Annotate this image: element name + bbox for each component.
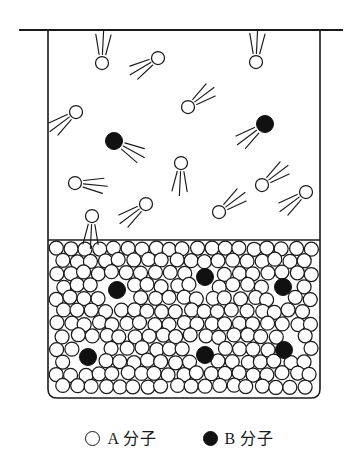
gas-phase-molecules	[49, 30, 313, 249]
liquid-molecule-a	[77, 265, 91, 279]
motion-lines	[267, 162, 289, 183]
liquid-molecule-a	[241, 328, 255, 342]
liquid-molecule-a	[288, 290, 302, 304]
liquid-molecule-a	[269, 380, 283, 394]
motion-lines	[119, 206, 141, 227]
liquid-molecule-a	[50, 267, 64, 281]
gas-molecule-a	[213, 206, 226, 219]
liquid-molecule-a	[120, 316, 134, 330]
gas-molecule-a	[250, 56, 263, 69]
liquid-molecule-b	[109, 282, 126, 299]
legend-label-b: B 分子	[225, 431, 274, 447]
liquid-molecule-a	[57, 303, 71, 317]
liquid-molecule-a	[213, 378, 227, 392]
liquid-molecule-a	[227, 328, 241, 342]
motion-lines	[49, 114, 71, 135]
liquid-molecule-a	[283, 380, 297, 394]
liquid-molecule-a	[70, 278, 84, 292]
liquid-molecule-a	[84, 303, 98, 317]
liquid-molecule-a	[298, 380, 312, 394]
liquid-molecule-a	[218, 241, 232, 255]
liquid-molecule-a	[275, 317, 289, 331]
liquid-molecule-a	[255, 379, 269, 393]
liquid-molecule-a	[239, 380, 253, 394]
liquid-molecule-a	[56, 253, 70, 267]
motion-lines	[193, 84, 215, 105]
liquid-molecule-a	[141, 380, 155, 394]
liquid-molecule-a	[105, 367, 119, 381]
liquid-molecule-a	[70, 303, 84, 317]
liquid-molecule-a	[99, 354, 113, 368]
gas-molecule-a	[182, 101, 195, 114]
legend-item-b: B 分子	[203, 422, 274, 455]
liquid-molecule-a	[233, 342, 247, 356]
liquid-molecule-a	[199, 329, 213, 343]
liquid-molecule-a	[85, 329, 99, 343]
liquid-molecule-a	[148, 265, 162, 279]
liquid-molecule-a	[154, 379, 168, 393]
liquid-molecule-a	[83, 278, 97, 292]
liquid-molecule-b	[276, 342, 293, 359]
liquid-molecule-a	[184, 254, 198, 268]
liquid-molecule-a	[56, 355, 70, 369]
liquid-molecule-a	[65, 342, 79, 356]
liquid-molecule-a	[183, 328, 197, 342]
liquid-molecule-a	[162, 342, 176, 356]
liquid-molecule-a	[254, 330, 268, 344]
liquid-molecule-a	[155, 305, 169, 319]
liquid-molecule-a	[204, 367, 218, 381]
liquid-molecule-a	[56, 378, 70, 392]
liquid-molecule-a	[197, 255, 211, 269]
gas-molecule-a	[256, 179, 269, 192]
liquid-molecule-a	[169, 356, 183, 370]
gas-molecule-a	[69, 177, 82, 190]
liquid-molecule-a	[71, 328, 85, 342]
gas-molecule-a	[70, 106, 83, 119]
liquid-molecule-a	[147, 366, 161, 380]
legend-item-a: A 分子	[85, 422, 156, 455]
legend: A 分子 B 分子	[0, 422, 359, 455]
motion-lines	[250, 30, 265, 54]
liquid-molecule-a	[303, 293, 317, 307]
liquid-molecule-a	[135, 341, 149, 355]
liquid-molecule-a	[104, 265, 118, 279]
motion-lines	[121, 143, 144, 163]
liquid-molecule-a	[189, 366, 203, 380]
liquid-molecule-a	[281, 303, 295, 317]
legend-label-a: A 分子	[107, 431, 156, 447]
liquid-molecule-a	[218, 341, 232, 355]
liquid-molecule-a	[55, 330, 69, 344]
liquid-molecule-a	[175, 342, 189, 356]
liquid-molecule-a	[197, 304, 211, 318]
molecule-b-circle-icon	[203, 431, 218, 446]
liquid-molecule-a	[84, 379, 98, 393]
liquid-molecule-a	[241, 277, 255, 291]
motion-lines	[96, 31, 111, 55]
liquid-molecule-b	[197, 347, 214, 364]
liquid-molecule-a	[253, 355, 267, 369]
molecule-a-circle-icon	[85, 431, 100, 446]
liquid-molecule-a	[182, 277, 196, 291]
liquid-molecule-a	[149, 291, 163, 305]
liquid-molecule-a	[261, 316, 275, 330]
liquid-molecule-b	[80, 349, 97, 366]
liquid-molecule-a	[240, 304, 254, 318]
phase-diagram-svg	[0, 0, 359, 455]
liquid-molecule-a	[92, 367, 106, 381]
liquid-molecule-a	[185, 303, 199, 317]
liquid-molecule-a	[211, 254, 225, 268]
motion-lines	[236, 127, 259, 148]
liquid-molecule-a	[290, 266, 304, 280]
gas-molecule-a	[96, 57, 109, 70]
liquid-molecule-a	[275, 366, 289, 380]
liquid-molecule-a	[63, 290, 77, 304]
liquid-molecule-a	[119, 266, 133, 280]
liquid-phase-molecules	[49, 241, 318, 394]
liquid-molecule-b	[275, 279, 292, 296]
liquid-molecule-a	[184, 379, 198, 393]
liquid-molecule-a	[120, 341, 134, 355]
liquid-molecule-a	[226, 278, 240, 292]
liquid-molecule-a	[302, 367, 316, 381]
gas-molecule-a	[300, 186, 313, 199]
liquid-molecule-a	[132, 316, 146, 330]
